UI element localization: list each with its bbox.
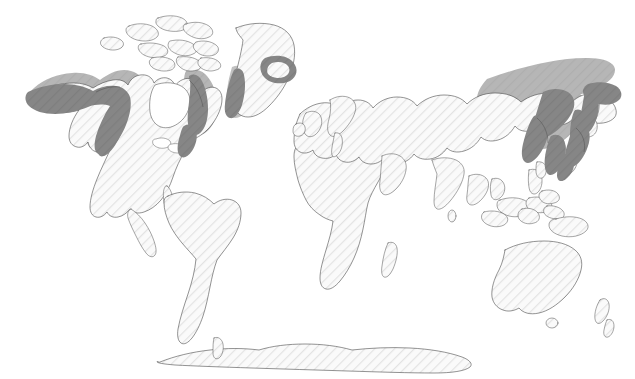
world-map-svg: [0, 0, 635, 379]
land-sri-lanka: [448, 210, 456, 222]
land-tasmania: [546, 318, 558, 328]
world-distribution-map: [0, 0, 635, 379]
